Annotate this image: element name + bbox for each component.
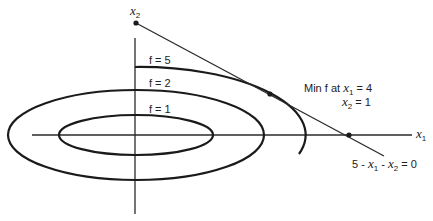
x1-intercept-point bbox=[346, 132, 351, 137]
constraint-label: 5 - x1 - x2 = 0 bbox=[352, 156, 417, 173]
optimum-point bbox=[267, 91, 272, 96]
optimum-annotation-line1: Min f at x1 = 4 bbox=[304, 80, 372, 97]
x1-axis-label: x1 bbox=[415, 126, 427, 143]
optimization-diagram: x2 x1 f = 5 f = 2 f = 1 Min f at x1 = 4 … bbox=[0, 0, 433, 221]
x2-axis-label: x2 bbox=[129, 3, 141, 20]
x2-intercept-point bbox=[133, 20, 138, 25]
contour-label-f1: f = 1 bbox=[149, 103, 171, 115]
contour-label-f5: f = 5 bbox=[149, 54, 171, 66]
contour-label-f2: f = 2 bbox=[149, 77, 171, 89]
optimum-annotation-line2: x2 = 1 bbox=[341, 94, 371, 111]
